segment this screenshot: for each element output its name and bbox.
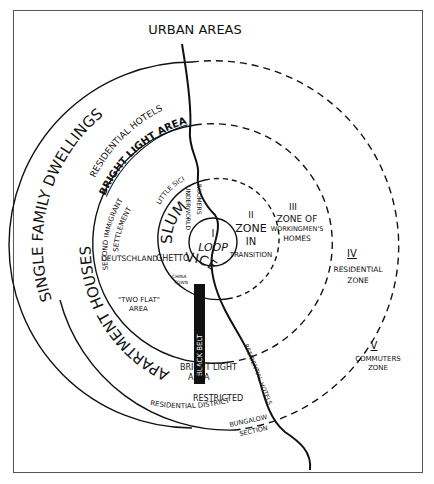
svg-text:TRANSITION: TRANSITION <box>229 251 272 259</box>
svg-text:RESIDENTIAL: RESIDENTIAL <box>333 265 383 274</box>
apartment-houses-label: APARTMENT HOUSES <box>76 245 171 384</box>
two-flat-label-1: "TWO FLAT" <box>118 296 160 304</box>
deutschland-label: DEUTSCHLAND <box>101 254 158 263</box>
two-flat-label-2: AREA <box>129 305 148 313</box>
svg-text:III: III <box>289 202 297 212</box>
svg-text:WORKINGMEN'S: WORKINGMEN'S <box>271 225 324 233</box>
zone-2: II ZONE IN TRANSITION <box>229 210 272 259</box>
zone-3: III ZONE OF WORKINGMEN'S HOMES <box>271 202 324 243</box>
svg-text:ZONE: ZONE <box>368 364 388 372</box>
diagram-title: URBAN AREAS <box>148 22 242 37</box>
zone-1-name: LOOP <box>198 241 228 254</box>
svg-text:ZONE: ZONE <box>235 222 266 235</box>
svg-text:ZONE: ZONE <box>347 276 369 285</box>
svg-text:COMMUTERS: COMMUTERS <box>355 355 401 363</box>
bright-light-bottom-label-1: BRIGHT LIGHT <box>180 363 237 372</box>
svg-text:IV: IV <box>347 248 357 259</box>
china-town-label-1: CHINA <box>172 274 186 279</box>
zone-5: V COMMUTERS ZONE <box>355 340 401 372</box>
svg-text:HOMES: HOMES <box>283 234 311 243</box>
svg-text:ZONE OF: ZONE OF <box>277 214 318 224</box>
svg-text:II: II <box>248 210 253 220</box>
zone-1: I LOOP <box>198 228 228 254</box>
residential-hotels-river-label: RESIDENTIAL HOTELS <box>243 343 274 406</box>
svg-text:IN: IN <box>246 236 256 247</box>
china-town-label-2: TOWN <box>174 280 189 285</box>
zone-4: IV RESIDENTIAL ZONE <box>333 248 383 285</box>
concentric-zone-diagram: URBAN AREAS BLACK BELT SINGLE FAMILY DWE… <box>0 0 434 484</box>
restricted-label: RESTRICTED <box>193 394 243 403</box>
svg-text:V: V <box>371 340 378 351</box>
bright-light-bottom-label-2: AREA <box>188 373 210 382</box>
roomers-label: ROOMERS <box>196 184 203 215</box>
ghetto-label: GHETTO <box>156 254 189 263</box>
zone-1-numeral: I <box>212 228 215 239</box>
underworld-label: UNDERWORLD <box>185 186 192 230</box>
